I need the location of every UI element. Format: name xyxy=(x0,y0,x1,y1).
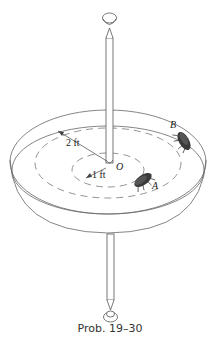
label-2ft: 2 ft xyxy=(66,137,80,148)
shaft-lower xyxy=(107,234,114,300)
shaft-upper-tip xyxy=(106,28,113,38)
shaft-upper xyxy=(106,38,113,163)
label-1ft: 1 ft xyxy=(92,169,106,180)
beetle-b-icon xyxy=(171,129,194,154)
shaft-lower-tip xyxy=(107,300,114,310)
label-a: A xyxy=(151,180,159,191)
label-o: O xyxy=(116,161,123,172)
figure-caption: Prob. 19–30 xyxy=(0,322,214,335)
rotating-dish-diagram: 2 ft 1 ft O A B xyxy=(0,0,214,341)
dish-bottom-edge xyxy=(10,160,206,233)
bottom-knob-inner xyxy=(107,311,115,317)
label-b: B xyxy=(170,119,176,130)
